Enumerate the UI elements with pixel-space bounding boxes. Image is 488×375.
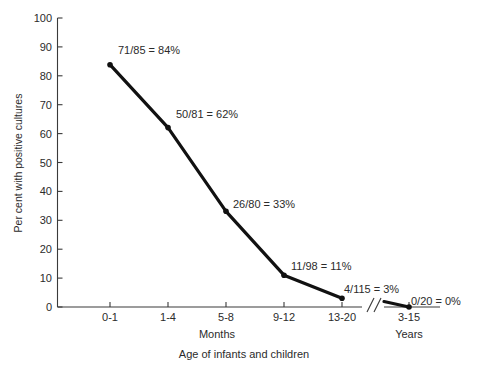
point-annotation: 71/85 = 84% — [118, 44, 180, 56]
x-tick-label: 3-15 — [398, 311, 420, 323]
point-annotation: 11/98 = 11% — [291, 260, 352, 272]
x-tick-label: 0-1 — [102, 311, 118, 323]
data-point-marker — [107, 62, 113, 68]
chart-svg: Per cent with positive cultures 100 90 8… — [0, 0, 488, 375]
x-tick-label: 5-8 — [218, 311, 234, 323]
y-tick-label: 10 — [40, 272, 52, 284]
y-tick-label: 50 — [40, 157, 52, 169]
data-point-marker — [165, 125, 171, 131]
point-annotation: 26/80 = 33% — [233, 198, 295, 210]
y-tick-label: 20 — [40, 243, 52, 255]
data-point-marker — [281, 272, 287, 278]
x-tick-label: 13-20 — [328, 311, 356, 323]
y-tick-label: 90 — [40, 41, 52, 53]
y-tick-label: 80 — [40, 70, 52, 82]
point-annotation: 0/20 = 0% — [411, 295, 461, 307]
y-tick-label: 60 — [40, 128, 52, 140]
point-annotation: 50/81 = 62% — [176, 108, 238, 120]
point-annotation: 4/115 = 3% — [344, 283, 399, 295]
x-tick-label: 1-4 — [160, 311, 176, 323]
data-point-marker — [339, 296, 345, 302]
x-group-label-years: Years — [395, 328, 423, 340]
y-tick-label: 0 — [46, 301, 52, 313]
y-tick-label: 70 — [40, 99, 52, 111]
chart-figure: Per cent with positive cultures 100 90 8… — [0, 0, 488, 375]
x-tick-label: 9-12 — [273, 311, 295, 323]
y-tick-label: 30 — [40, 214, 52, 226]
y-tick-label: 40 — [40, 185, 52, 197]
y-axis-title: Per cent with positive cultures — [12, 94, 24, 233]
y-tick-label: 100 — [34, 12, 52, 24]
x-axis-title: Age of infants and children — [179, 348, 309, 360]
x-group-label-months: Months — [199, 328, 236, 340]
data-point-marker — [223, 209, 229, 215]
